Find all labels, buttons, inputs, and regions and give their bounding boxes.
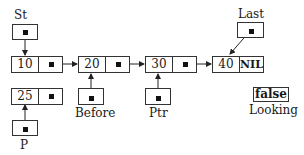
pointer-dot-icon bbox=[23, 127, 28, 132]
last-label: Last bbox=[238, 8, 264, 20]
before-label: Before bbox=[75, 107, 115, 119]
node-value: 10 bbox=[12, 57, 39, 72]
list-node: 40 NIL bbox=[212, 56, 264, 73]
node-next bbox=[106, 57, 129, 72]
node-value: 30 bbox=[146, 57, 173, 72]
pointer-dot-icon bbox=[249, 29, 254, 34]
pointer-dot-icon bbox=[49, 62, 54, 67]
looking-label: Looking bbox=[249, 104, 298, 116]
pointer-dot-icon bbox=[49, 94, 54, 99]
before-pointer-box bbox=[78, 88, 104, 105]
p-pointer-box bbox=[12, 120, 38, 136]
list-node: 10 bbox=[11, 56, 63, 73]
pointer-dot-icon bbox=[23, 30, 28, 35]
pointer-dot-icon bbox=[156, 96, 161, 101]
p-label: P bbox=[20, 139, 28, 151]
pointer-dot-icon bbox=[116, 62, 121, 67]
list-node: 30 bbox=[145, 56, 197, 73]
node-value: 25 bbox=[12, 89, 39, 104]
pointer-dot-icon bbox=[183, 62, 188, 67]
last-pointer-box bbox=[237, 22, 264, 38]
new-node: 25 bbox=[11, 88, 63, 105]
node-next-nil: NIL bbox=[240, 57, 263, 72]
list-node: 20 bbox=[78, 56, 130, 73]
node-value: 40 bbox=[213, 57, 240, 72]
node-next bbox=[173, 57, 196, 72]
st-pointer-box bbox=[12, 24, 38, 40]
looking-value-box: false bbox=[253, 87, 289, 102]
pointer-dot-icon bbox=[89, 96, 94, 101]
node-value: 20 bbox=[79, 57, 106, 72]
ptr-pointer-box bbox=[145, 88, 171, 105]
node-next bbox=[39, 89, 62, 104]
ptr-label: Ptr bbox=[149, 107, 168, 119]
node-next bbox=[39, 57, 62, 72]
st-label: St bbox=[14, 9, 27, 21]
